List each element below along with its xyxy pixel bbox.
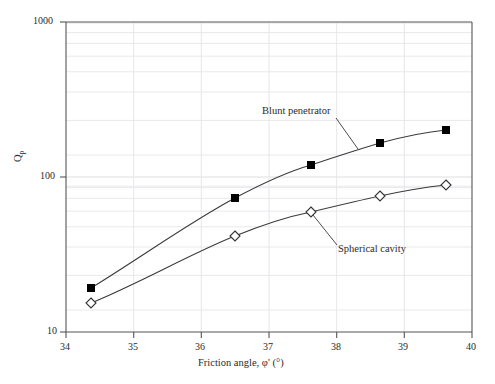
data-point-marker <box>87 284 95 292</box>
y-tick-label-10: 10 <box>47 325 57 336</box>
data-point-marker <box>441 180 451 190</box>
x-tick-label-36: 36 <box>195 341 205 352</box>
chart-figure: 1000 100 10 34 35 36 37 38 39 40 Qp Fric… <box>0 0 495 384</box>
y-axis-title-main: Q <box>12 154 23 162</box>
data-point-marker <box>376 139 384 147</box>
data-point-marker <box>86 298 96 308</box>
data-point-marker <box>306 207 316 217</box>
x-tick-label-34: 34 <box>60 341 70 352</box>
x-tick-label-40: 40 <box>466 341 476 352</box>
plot-area <box>0 0 495 384</box>
y-axis-title: Qp <box>12 151 26 162</box>
data-point-marker <box>442 126 450 134</box>
data-point-marker <box>231 194 239 202</box>
y-tick-label-1000: 1000 <box>33 15 53 26</box>
data-point-marker <box>375 191 385 201</box>
annotation-spherical-cavity: Spherical cavity <box>338 243 406 254</box>
annotation-blunt-penetrator: Blunt penetrator <box>262 105 331 116</box>
x-tick-label-38: 38 <box>331 341 341 352</box>
x-tick-label-35: 35 <box>128 341 138 352</box>
annotation-leader-lines <box>313 118 358 245</box>
y-axis-title-subscript: p <box>17 151 26 155</box>
x-tick-label-39: 39 <box>398 341 408 352</box>
leader-line-spherical-cavity <box>313 215 337 245</box>
data-point-marker <box>230 231 240 241</box>
x-tick-label-37: 37 <box>263 341 273 352</box>
axis-ticks <box>60 22 472 338</box>
data-point-marker <box>307 161 315 169</box>
x-axis-title: Friction angle, φ' (°) <box>198 357 284 368</box>
y-tick-label-100: 100 <box>40 170 55 181</box>
leader-line-blunt-penetrator <box>336 118 358 149</box>
